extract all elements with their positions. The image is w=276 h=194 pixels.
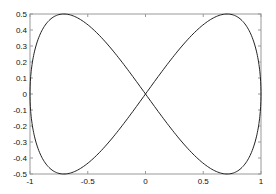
y-tick-label: -0.5: [13, 170, 27, 179]
x-tick-label: 0: [143, 177, 148, 186]
x-tick-label: 0.5: [198, 177, 210, 186]
x-tick-label: -0.5: [81, 177, 95, 186]
y-tick-label: -0.4: [13, 154, 27, 163]
y-tick-label: -0.2: [13, 122, 27, 131]
y-tick-label: 0.3: [16, 42, 28, 51]
y-tick-label: -0.3: [13, 138, 27, 147]
y-tick-label: 0.2: [16, 58, 28, 67]
x-tick-label: -1: [26, 177, 34, 186]
line-chart: -0.5-0.4-0.3-0.2-0.100.10.20.30.40.5 -1-…: [0, 0, 276, 194]
y-tick-label: -0.1: [13, 106, 27, 115]
x-tick-label: 1: [259, 177, 264, 186]
y-tick-label: 0: [23, 90, 28, 99]
y-tick-label: 0.5: [16, 10, 28, 19]
y-tick-label: 0.4: [16, 26, 28, 35]
y-tick-label: 0.1: [16, 74, 28, 83]
